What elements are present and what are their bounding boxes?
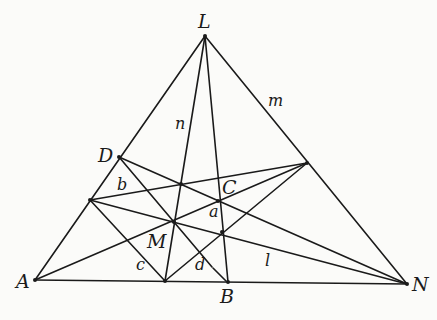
point-A (33, 278, 37, 282)
side-LN-m (205, 36, 407, 284)
tick-d (213, 268, 226, 281)
point-B (226, 280, 230, 284)
label-A: A (14, 270, 30, 292)
label-B: B (219, 285, 234, 307)
label-a: a (209, 202, 219, 221)
line-n-L-to-S (165, 36, 205, 281)
point-Q (305, 161, 309, 165)
point-S (163, 279, 167, 283)
projective-geometry-diagram: L m n D b C a M A c d B l N (0, 0, 437, 320)
point-P (88, 198, 92, 202)
point-L (203, 34, 207, 38)
point-M (172, 220, 176, 224)
label-b: b (117, 175, 127, 194)
label-L: L (197, 10, 211, 32)
line-N-to-D (119, 157, 407, 284)
point-N (405, 282, 409, 286)
point-D (117, 155, 121, 159)
point-X (179, 182, 183, 186)
label-m: m (268, 91, 283, 110)
label-c: c (136, 255, 145, 274)
point-R (220, 230, 224, 234)
label-M: M (146, 230, 167, 252)
label-l: l (265, 251, 270, 270)
label-d: d (195, 255, 205, 274)
side-AN (35, 280, 407, 284)
label-n: n (175, 114, 185, 133)
label-C: C (222, 176, 237, 198)
label-D: D (97, 144, 113, 166)
label-N: N (411, 273, 430, 295)
